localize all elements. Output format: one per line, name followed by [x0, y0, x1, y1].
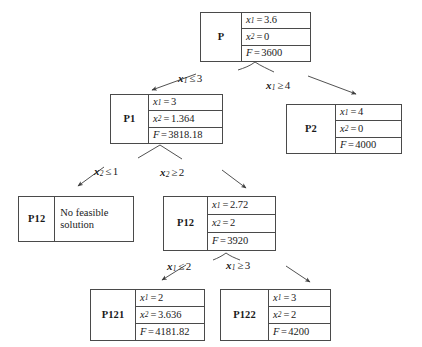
node-P122-label: P122	[221, 290, 269, 340]
node-P122-row-x2: x2=2	[269, 307, 330, 324]
branch-and-bound-diagram: P x1=3.6 x2=0 F=3600 P1 x1=3 x2=1.364	[0, 0, 422, 347]
branch-label-x1-ge-3: x1≥3	[226, 260, 250, 272]
branch-label-x1-le-2: x1≤2	[167, 261, 191, 273]
node-P121: P121 x1=2 x2=3.636 F=4181.82	[90, 289, 205, 341]
node-P122-row-F: F=4200	[269, 324, 330, 340]
node-P1-row-F: F=3818.18	[149, 128, 222, 143]
branch-label-x2-ge-2: x2≥2	[160, 167, 184, 179]
node-P2-row-x1: x1=4	[336, 105, 401, 121]
node-P2-row-F: F=4000	[336, 138, 401, 153]
branch-label-x1-ge-4: x1≥4	[266, 80, 290, 92]
node-P12-label: P12	[164, 197, 208, 250]
node-P1-row-x2: x2=1.364	[149, 111, 222, 127]
node-P122-rows: x1=3 x2=2 F=4200	[269, 290, 330, 340]
node-P2-row-x2: x2=0	[336, 121, 401, 137]
node-P12: P12 x1=2.72 x2=2 F=3920	[163, 196, 276, 251]
node-P-label: P	[201, 13, 242, 61]
node-P1-row-x1: x1=3	[149, 95, 222, 111]
node-P12-infeasible: P12 No feasible solution	[18, 196, 134, 242]
node-P12-row-x2: x2=2	[208, 215, 275, 233]
node-P2-label: P2	[287, 105, 336, 153]
node-P122: P122 x1=3 x2=2 F=4200	[220, 289, 331, 341]
node-P-row-x2: x2=0	[242, 29, 310, 45]
arrow-P12-to-P122	[286, 266, 310, 282]
node-P121-row-x2: x2=3.636	[136, 307, 204, 324]
node-P2: P2 x1=4 x2=0 F=4000	[286, 104, 402, 154]
node-P121-rows: x1=2 x2=3.636 F=4181.82	[136, 290, 204, 340]
node-P121-label: P121	[91, 290, 136, 340]
node-P12-rows: x1=2.72 x2=2 F=3920	[208, 197, 275, 250]
node-P12-row-x1: x1=2.72	[208, 197, 275, 215]
node-P1-label: P1	[111, 95, 149, 143]
node-P122-row-x1: x1=3	[269, 290, 330, 307]
node-P12-row-F: F=3920	[208, 233, 275, 250]
arrow-P1-to-P12	[222, 170, 246, 188]
branch-label-x2-le-1: x2≤1	[94, 166, 118, 178]
node-P-row-F: F=3600	[242, 46, 310, 61]
node-P2-rows: x1=4 x2=0 F=4000	[336, 105, 401, 153]
node-P-row-x1: x1=3.6	[242, 13, 310, 29]
node-P12-infeasible-note: No feasible solution	[55, 197, 133, 241]
node-P12-infeasible-label: P12	[19, 197, 55, 241]
node-P121-row-x1: x1=2	[136, 290, 204, 307]
node-P: P x1=3.6 x2=0 F=3600	[200, 12, 311, 62]
arrow-P-to-P2	[308, 76, 356, 94]
node-P121-row-F: F=4181.82	[136, 324, 204, 340]
node-P-rows: x1=3.6 x2=0 F=3600	[242, 13, 310, 61]
node-P1: P1 x1=3 x2=1.364 F=3818.18	[110, 94, 223, 144]
branch-label-x1-le-3: x1≤3	[178, 73, 202, 85]
node-P1-rows: x1=3 x2=1.364 F=3818.18	[149, 95, 222, 143]
